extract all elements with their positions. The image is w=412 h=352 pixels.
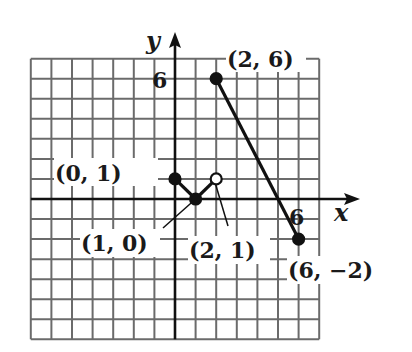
point-1-0-closed [190, 194, 201, 205]
point-2-6-closed [211, 73, 222, 84]
y-axis-label: y [145, 26, 162, 55]
point-0-1-closed [170, 173, 181, 184]
x-tick-label-6: 6 [289, 204, 304, 230]
point-6-neg2-closed [293, 234, 304, 245]
x-axis-label: x [333, 198, 349, 227]
point-label-2-6: (2, 6) [227, 46, 294, 72]
point-label-0-1: (0, 1) [55, 160, 122, 186]
point-label-6-neg2: (6, −2) [288, 257, 373, 283]
point-label-1-0: (1, 0) [81, 230, 148, 256]
y-tick-label-6: 6 [152, 67, 167, 93]
point-label-2-1: (2, 1) [189, 237, 256, 263]
point-2-1-open [211, 173, 222, 184]
graph: y x 6 6 (0, 1) (1, 0) (2, 1) (2, 6) (6, … [0, 0, 412, 352]
